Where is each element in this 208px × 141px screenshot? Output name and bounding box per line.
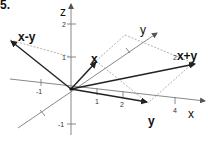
z-axis-label: z (60, 6, 66, 18)
x-tick-neg1: -1 (36, 88, 42, 95)
figure-number: 5. (0, 0, 10, 11)
vector-2x-plus-y-label: 2x+y (173, 47, 197, 63)
vector-y-label: y (148, 115, 155, 127)
vector-diagram: 5. z 2 1 -1 -1 1 2 4 x y x-y x y 2x+y (0, 0, 208, 141)
x-axis-label: x (188, 108, 194, 120)
vector-diagram-svg (0, 0, 208, 141)
z-tick-neg1: -1 (58, 121, 64, 128)
y-axis-label: y (140, 24, 146, 36)
x-tick-2: 2 (120, 101, 124, 108)
vector-2x-plus-y-rest: x+y (177, 49, 197, 63)
x-tick-1: 1 (95, 98, 99, 105)
origin-dot (69, 87, 72, 90)
vector-y (71, 89, 147, 102)
x-tick-4: 4 (173, 107, 177, 114)
z-tick-1: 1 (62, 54, 66, 61)
vector-x-label: x (91, 53, 98, 65)
z-tick-2: 2 (62, 21, 66, 28)
vector-x-y-label: x-y (18, 31, 35, 43)
y-axis (18, 33, 157, 128)
vector-2x-plus-y (71, 64, 195, 89)
ticks (40, 24, 175, 124)
axes (10, 4, 205, 135)
